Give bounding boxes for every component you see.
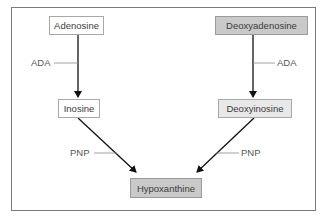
node-hypoxanthine: Hypoxanthine xyxy=(130,178,202,198)
node-deoxyadenosine: Deoxyadenosine xyxy=(215,16,308,35)
node-inosine: Inosine xyxy=(58,99,100,118)
label-pnp-left: PNP xyxy=(70,147,90,158)
node-adenosine: Adenosine xyxy=(49,16,104,35)
arrow-inosine-hypoxanthine xyxy=(78,118,136,172)
label-ada-left: ADA xyxy=(31,57,51,68)
label-pnp-right: PNP xyxy=(241,147,261,158)
label-ada-right: ADA xyxy=(277,57,297,68)
arrow-deoxyinosine-hypoxanthine xyxy=(197,118,254,172)
node-deoxyinosine: Deoxyinosine xyxy=(218,99,292,118)
